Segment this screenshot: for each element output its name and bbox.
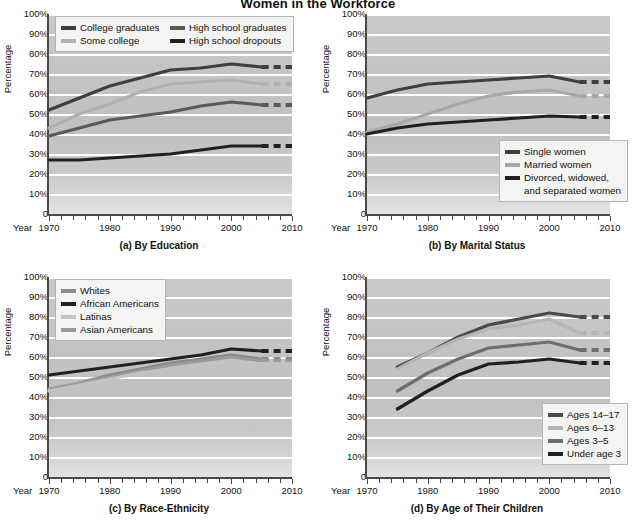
legend-swatch-icon [170, 39, 185, 43]
legend-label: Married women [524, 158, 592, 171]
legend-swatch-icon [505, 176, 520, 180]
legend-swatch-icon [61, 302, 76, 306]
legend-label: High school dropouts [189, 34, 281, 47]
legend: Single womenMarried womenDivorced, widow… [499, 140, 628, 202]
legend-label: African Americans [80, 297, 159, 310]
legend-label: Under age 3 [567, 447, 621, 460]
figure-root: Women in the Workforce Percentage100%90%… [0, 0, 636, 526]
legend-label: Ages 3–5 [567, 434, 608, 447]
panel-c-by-race-ethnicity: Percentage100%90%80%70%60%50%40%30%20%10… [0, 263, 318, 526]
panel-caption: (b) By Marital Status [318, 240, 636, 251]
legend-swatch-icon [505, 163, 520, 167]
panel-d-by-age-of-children: Percentage100%90%80%70%60%50%40%30%20%10… [318, 263, 636, 526]
data-line [49, 102, 262, 136]
legend-row: Some collegeHigh school dropouts [61, 34, 287, 47]
legend-item[interactable]: Ages 14–17 [548, 408, 621, 421]
legend-item[interactable]: Ages 6–13 [548, 421, 621, 434]
data-line [397, 342, 579, 391]
legend-item[interactable]: High school dropouts [170, 34, 281, 47]
legend-label: Single women [524, 145, 586, 158]
legend-item[interactable]: High school graduates [170, 21, 287, 34]
legend-swatch-icon [61, 26, 76, 30]
legend-label-continued: and separated women [505, 184, 621, 197]
data-line [49, 146, 262, 160]
legend-item[interactable]: Divorced, widowed, [505, 171, 621, 184]
legend-label: Whites [80, 284, 110, 297]
legend-label: Ages 6–13 [567, 421, 614, 434]
legend-label: College graduates [80, 21, 160, 34]
legend-swatch-icon [548, 413, 563, 417]
legend-swatch-icon [61, 315, 76, 319]
panel-caption: (a) By Education [0, 240, 318, 251]
legend-swatch-icon [61, 39, 76, 43]
legend-label: Latinas [80, 310, 112, 323]
legend-label: Ages 14–17 [567, 408, 619, 421]
data-line [49, 80, 262, 128]
legend-item[interactable]: College graduates [61, 21, 170, 34]
legend-label: Asian Americans [80, 323, 153, 336]
data-line [367, 76, 580, 98]
panel-a-by-education: Percentage100%90%80%70%60%50%40%30%20%10… [0, 0, 318, 263]
legend-swatch-icon [170, 26, 185, 30]
data-series-group [318, 0, 636, 263]
legend-swatch-icon [548, 426, 563, 430]
legend-item[interactable]: Whites [61, 284, 159, 297]
data-series-group [318, 263, 636, 526]
panel-caption: (d) By Age of Their Children [318, 503, 636, 514]
legend-swatch-icon [548, 439, 563, 443]
legend: College graduatesHigh school graduatesSo… [55, 16, 294, 52]
legend-label: High school graduates [189, 21, 287, 34]
legend-swatch-icon [505, 150, 520, 154]
legend-item[interactable]: Latinas [61, 310, 159, 323]
legend-item[interactable]: Ages 3–5 [548, 434, 621, 447]
panel-caption: (c) By Race-Ethnicity [0, 503, 318, 514]
data-line [397, 359, 579, 409]
legend-label: Divorced, widowed, [524, 171, 609, 184]
legend-swatch-icon [61, 289, 76, 293]
legend-item[interactable]: Asian Americans [61, 323, 159, 336]
legend-swatch-icon [61, 328, 76, 332]
legend-item[interactable]: Under age 3 [548, 447, 621, 460]
legend-item[interactable]: Some college [61, 34, 170, 47]
legend: Ages 14–17Ages 6–13Ages 3–5Under age 3 [542, 403, 628, 465]
legend-label: Some college [80, 34, 139, 47]
legend: WhitesAfrican AmericansLatinasAsian Amer… [55, 279, 166, 341]
legend-swatch-icon [548, 452, 563, 456]
legend-row: College graduatesHigh school graduates [61, 21, 287, 34]
legend-item[interactable]: Married women [505, 158, 621, 171]
panel-b-by-marital-status: Percentage100%90%80%70%60%50%40%30%20%10… [318, 0, 636, 263]
legend-item[interactable]: African Americans [61, 297, 159, 310]
data-line [367, 90, 580, 132]
legend-item[interactable]: Single women [505, 145, 621, 158]
